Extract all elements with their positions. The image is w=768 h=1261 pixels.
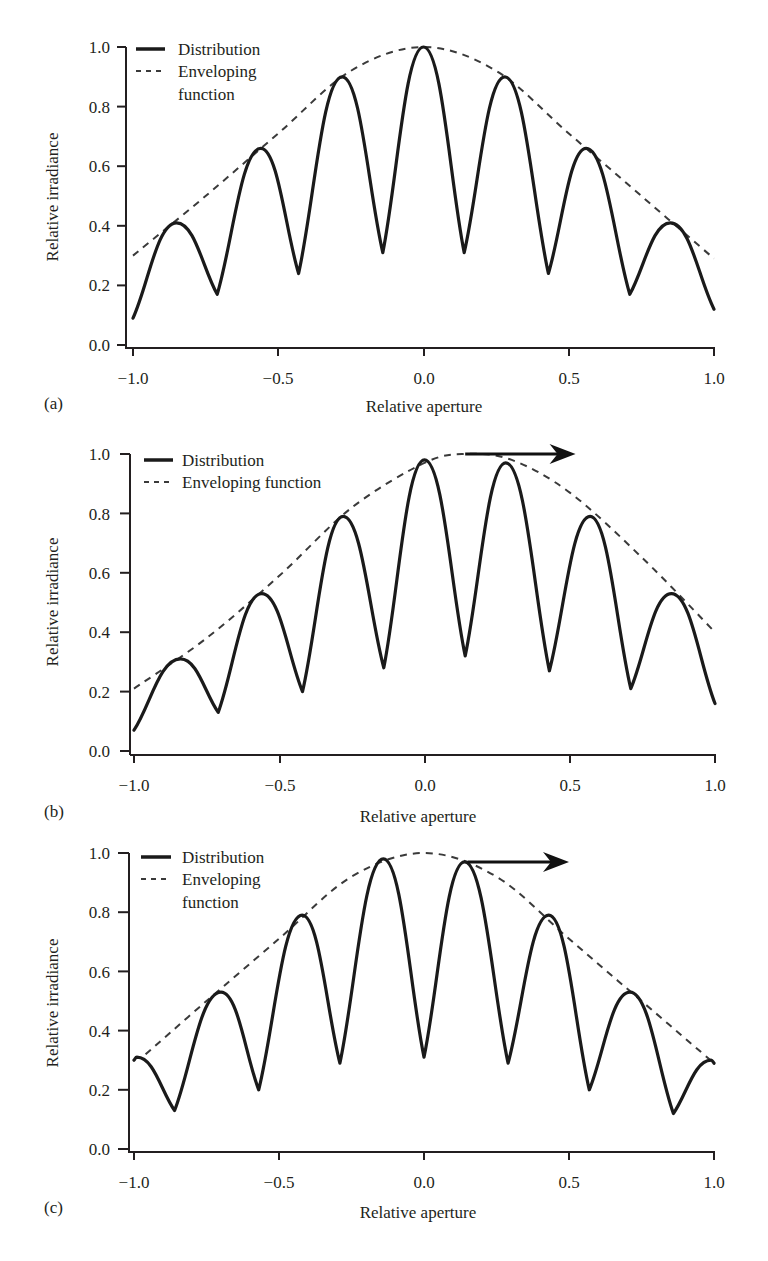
legend-envelope-label: Enveloping <box>182 870 261 889</box>
x-axis: −1.0 −0.5 0.0 0.5 1.0 <box>119 1152 725 1192</box>
x-axis-title: Relative aperture <box>366 397 483 416</box>
y-tick-label: 0.6 <box>89 963 110 982</box>
x-tick-label: 0.0 <box>413 1173 434 1192</box>
legend-envelope-label-line2: function <box>178 85 235 104</box>
y-tick-label: 0.0 <box>89 742 110 761</box>
y-tick-label: 0.8 <box>89 98 110 117</box>
x-axis: −1.0 −0.5 0.0 0.5 1.0 <box>119 755 726 795</box>
y-axis-title: Relative irradiance <box>43 538 62 667</box>
x-tick-label: −1.0 <box>119 1173 150 1192</box>
y-tick-label: 0.2 <box>89 683 110 702</box>
y-tick-label: 0.8 <box>89 505 110 524</box>
x-tick-label: 1.0 <box>703 1173 724 1192</box>
y-axis: 0.0 0.2 0.4 0.6 0.8 1.0 <box>89 38 126 355</box>
panel-label: (b) <box>44 802 64 821</box>
x-axis: −1.0 −0.5 0.0 0.5 1.0 <box>118 348 725 388</box>
panel-a: Relative irradiance 0.0 0.2 0.4 0.6 0.8 … <box>43 38 725 416</box>
legend-distribution-label: Distribution <box>178 40 261 59</box>
y-tick-label: 0.2 <box>89 1081 110 1100</box>
y-tick-label: 0.0 <box>89 1140 110 1159</box>
y-tick-label: 0.2 <box>89 276 110 295</box>
legend-envelope-label: Enveloping function <box>182 473 322 492</box>
x-tick-label: 0.5 <box>558 369 579 388</box>
y-tick-label: 1.0 <box>89 844 110 863</box>
legend-envelope-label: Enveloping <box>178 62 257 81</box>
figure: Relative irradiance 0.0 0.2 0.4 0.6 0.8 … <box>0 0 768 1261</box>
y-axis: 0.0 0.2 0.4 0.6 0.8 1.0 <box>89 844 129 1159</box>
x-tick-label: 1.0 <box>704 776 725 795</box>
x-tick-label: 0.5 <box>558 1173 579 1192</box>
y-tick-label: 1.0 <box>89 38 110 57</box>
x-axis-title: Relative aperture <box>360 807 477 826</box>
legend: Distribution Enveloping function <box>141 848 265 912</box>
legend: Distribution Enveloping function <box>136 40 261 104</box>
x-tick-label: −0.5 <box>264 1173 295 1192</box>
y-tick-label: 0.4 <box>89 1022 111 1041</box>
x-tick-label: −0.5 <box>263 369 294 388</box>
cut-off-caption <box>0 1250 768 1261</box>
legend-distribution-label: Distribution <box>182 451 265 470</box>
y-tick-label: 0.6 <box>89 157 110 176</box>
x-tick-label: −0.5 <box>265 776 296 795</box>
y-axis: 0.0 0.2 0.4 0.6 0.8 1.0 <box>89 445 130 761</box>
x-axis-title: Relative aperture <box>360 1203 477 1222</box>
panel-label: (a) <box>44 394 63 413</box>
y-tick-label: 1.0 <box>89 445 110 464</box>
shift-arrow-icon <box>465 444 575 464</box>
y-tick-label: 0.8 <box>89 903 110 922</box>
panel-b: Relative irradiance 0.0 0.2 0.4 0.6 0.8 … <box>43 444 726 826</box>
legend: Distribution Enveloping function <box>144 451 322 492</box>
y-axis-title: Relative irradiance <box>43 133 62 262</box>
x-tick-label: 0.5 <box>559 776 580 795</box>
distribution-curve <box>134 460 715 730</box>
y-tick-label: 0.0 <box>89 336 110 355</box>
y-axis-title: Relative irradiance <box>43 939 62 1068</box>
y-tick-label: 0.6 <box>89 564 110 583</box>
x-tick-label: −1.0 <box>118 369 149 388</box>
x-tick-label: 0.0 <box>413 369 434 388</box>
x-tick-label: −1.0 <box>119 776 150 795</box>
x-tick-label: 0.0 <box>414 776 435 795</box>
panel-c: Relative irradiance 0.0 0.2 0.4 0.6 0.8 … <box>43 844 725 1222</box>
x-tick-label: 1.0 <box>703 369 724 388</box>
panel-label: (c) <box>44 1198 63 1217</box>
legend-distribution-label: Distribution <box>182 848 265 867</box>
y-tick-label: 0.4 <box>89 217 111 236</box>
y-tick-label: 0.4 <box>89 623 111 642</box>
legend-envelope-label-line2: function <box>182 893 239 912</box>
shift-arrow-icon <box>468 852 570 872</box>
